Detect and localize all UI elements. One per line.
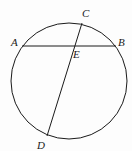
label-e: E	[72, 48, 80, 60]
diagram-svg: A B C D E	[0, 0, 132, 151]
label-a: A	[10, 36, 18, 48]
label-c: C	[82, 7, 90, 19]
label-b: B	[118, 36, 125, 48]
circle	[11, 23, 127, 139]
label-d: D	[36, 139, 45, 151]
chord-cd	[47, 23, 82, 136]
geometry-diagram: A B C D E	[0, 0, 132, 151]
